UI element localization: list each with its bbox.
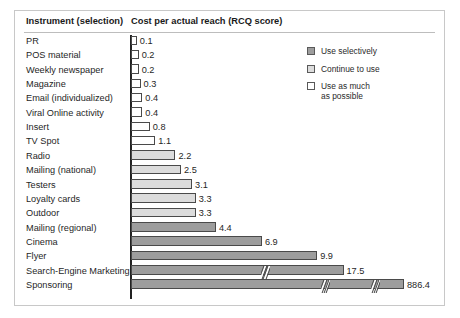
bar-value-label: 6.9 (265, 236, 278, 248)
bar (131, 208, 196, 218)
chart-row: Cinema6.9 (15, 235, 446, 249)
bar-value-label: 0.4 (145, 92, 158, 104)
bar-value-label: 0.1 (140, 35, 153, 47)
bar (131, 64, 139, 74)
axis-break-mark (321, 280, 330, 293)
bar-value-label: 0.8 (153, 121, 166, 133)
chart-row: Mailing (national)2.5 (15, 163, 446, 177)
instrument-label: Search-Engine Marketing (26, 265, 130, 277)
instrument-label: Viral Online activity (26, 107, 104, 119)
bar-value-label: 0.3 (144, 78, 157, 90)
chart-row: Insert0.8 (15, 120, 446, 134)
chart-row: Sponsoring886.4 (15, 278, 446, 292)
legend-swatch-continue-to-use (307, 65, 315, 73)
bar (131, 122, 150, 132)
chart-row: Mailing (regional)4.4 (15, 221, 446, 235)
legend-swatch-use-as-much-as-possible (307, 82, 315, 90)
bar-value-label: 1.1 (158, 135, 171, 147)
bar-value-label: 2.5 (184, 164, 197, 176)
instrument-label: Testers (26, 179, 56, 191)
bar (131, 107, 142, 117)
instrument-label: Cinema (26, 236, 58, 248)
chart-row: Testers3.1 (15, 178, 446, 192)
bar-value-label: 886.4 (407, 279, 430, 291)
bar (131, 136, 155, 146)
legend-label: Continue to use (321, 64, 437, 74)
instrument-label: Loyalty cards (26, 193, 80, 205)
legend-swatch-use-selectively (307, 47, 315, 55)
chart-legend: Use selectivelyContinue to useUse as muc… (307, 46, 437, 108)
bar (131, 193, 196, 203)
legend-label: Use as muchas possible (321, 81, 437, 101)
instrument-label: Insert (26, 121, 49, 133)
bar (131, 50, 139, 60)
bar (131, 165, 181, 175)
chart-row: Search-Engine Marketing17.5 (15, 264, 446, 278)
instrument-label: Mailing (regional) (26, 222, 96, 234)
instrument-label: PR (26, 35, 39, 47)
instrument-label: Magazine (26, 78, 66, 90)
bar-value-label: 0.2 (142, 49, 155, 61)
chart-row: Flyer9.9 (15, 249, 446, 263)
bar-value-label: 3.1 (195, 179, 208, 191)
column-header-cost: Cost per actual reach (RCQ score) (131, 16, 282, 26)
instrument-label: Flyer (26, 250, 46, 262)
bar-value-label: 0.2 (142, 64, 155, 76)
bar (131, 79, 141, 89)
axis-break-mark (261, 266, 270, 279)
bar (131, 279, 404, 289)
instrument-label: Outdoor (26, 207, 59, 219)
instrument-label: Radio (26, 150, 50, 162)
bar-value-label: 2.2 (178, 150, 191, 162)
bar (131, 236, 262, 246)
bar-value-label: 4.4 (219, 222, 232, 234)
bar (131, 251, 317, 261)
instrument-label: Sponsoring (26, 279, 72, 291)
instrument-label: TV Spot (26, 135, 59, 147)
chart-row: Viral Online activity0.4 (15, 106, 446, 120)
instrument-label: Weekly newspaper (26, 64, 103, 76)
legend-item[interactable]: Continue to use (307, 64, 437, 75)
legend-item[interactable]: Use as muchas possible (307, 81, 437, 101)
chart-row: Outdoor3.3 (15, 206, 446, 220)
bar (131, 150, 175, 160)
bar (131, 179, 192, 189)
bar (131, 36, 137, 46)
column-header-instrument: Instrument (selection) (26, 16, 123, 26)
chart-row: TV Spot1.1 (15, 134, 446, 148)
bar-value-label: 3.3 (199, 207, 212, 219)
bar-value-label: 3.3 (199, 193, 212, 205)
legend-label: Use selectively (321, 46, 437, 56)
chart-row: Loyalty cards3.3 (15, 192, 446, 206)
bar (131, 93, 142, 103)
bar-value-label: 0.4 (145, 107, 158, 119)
axis-break-mark (371, 280, 380, 293)
chart-row: Radio2.2 (15, 149, 446, 163)
chart-container: Instrument (selection) Cost per actual r… (14, 10, 445, 306)
bar (131, 222, 216, 232)
bar-value-label: 17.5 (347, 265, 365, 277)
instrument-label: Email (individualized) (26, 92, 113, 104)
instrument-label: POS material (26, 49, 81, 61)
legend-item[interactable]: Use selectively (307, 46, 437, 57)
column-header-row: Instrument (selection) Cost per actual r… (15, 11, 444, 33)
bar-value-label: 9.9 (320, 250, 333, 262)
instrument-label: Mailing (national) (26, 164, 96, 176)
bar (131, 265, 344, 275)
